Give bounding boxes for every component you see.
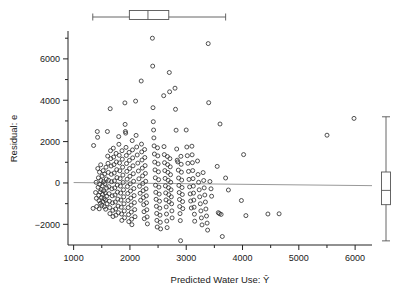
data-point [162, 94, 166, 98]
data-point [244, 214, 248, 218]
data-point [105, 130, 109, 134]
data-point [135, 153, 139, 157]
data-point [207, 101, 211, 105]
data-point [224, 176, 228, 180]
data-point [203, 200, 207, 204]
data-point [166, 163, 170, 167]
data-point [132, 187, 136, 191]
data-point [130, 139, 134, 143]
data-point [165, 226, 169, 230]
data-point [131, 156, 135, 160]
y-tick-label: 0 [55, 178, 60, 188]
data-point [108, 107, 112, 111]
data-point [185, 145, 189, 149]
scatter-points-group [91, 36, 356, 243]
data-point [226, 188, 230, 192]
data-point [190, 161, 194, 165]
data-point [198, 195, 202, 199]
data-point [139, 79, 143, 83]
data-point [123, 216, 127, 220]
y-tick-label: 2000 [40, 137, 60, 147]
data-point [130, 223, 134, 227]
data-point [131, 148, 135, 152]
data-point [178, 219, 182, 223]
data-point [156, 162, 160, 166]
data-point [190, 144, 194, 148]
data-point [325, 133, 329, 137]
data-point [191, 184, 195, 188]
x-tick-label: 6000 [345, 253, 365, 263]
data-point [208, 180, 212, 184]
data-point [174, 128, 178, 132]
data-point [164, 205, 168, 209]
data-point [196, 159, 200, 163]
data-point [136, 169, 140, 173]
residual-plot-figure: 100020003000400050006000−200002000400060… [0, 0, 405, 298]
data-point [162, 145, 166, 149]
top-box-rect [129, 11, 168, 20]
data-point [166, 170, 170, 174]
data-point [174, 107, 178, 111]
data-point [99, 163, 103, 167]
x-axis-label: Predicted Water Use: Ŷ [171, 274, 271, 285]
data-point [167, 71, 171, 75]
data-point [209, 187, 213, 191]
data-point [92, 144, 96, 148]
data-point [196, 173, 200, 177]
data-point [158, 199, 162, 203]
data-point [187, 169, 191, 173]
data-point [134, 133, 138, 137]
data-point [180, 186, 184, 190]
data-point [239, 199, 243, 203]
y-tick-label: 6000 [40, 54, 60, 64]
data-point [123, 122, 127, 126]
x-tick-label: 4000 [233, 253, 253, 263]
data-point [121, 181, 125, 185]
data-point [138, 184, 142, 188]
data-point [156, 146, 160, 150]
data-point [152, 136, 156, 140]
data-point [179, 239, 183, 243]
data-point [105, 194, 109, 198]
data-point [169, 173, 173, 177]
data-point [242, 153, 246, 157]
data-point [198, 202, 202, 206]
data-point [266, 212, 270, 216]
data-point [205, 221, 209, 225]
data-point [193, 219, 197, 223]
data-point [202, 186, 206, 190]
data-point [175, 147, 179, 151]
data-point [123, 101, 127, 105]
data-point [124, 145, 128, 149]
data-point [156, 170, 160, 174]
right-boxplot [382, 117, 391, 241]
data-point [180, 178, 184, 182]
x-tick-label: 5000 [289, 253, 309, 263]
data-point [143, 164, 147, 168]
data-point [178, 212, 182, 216]
data-point [117, 142, 121, 146]
data-point [120, 149, 124, 153]
data-point [170, 216, 174, 220]
data-point [151, 64, 155, 68]
data-point [184, 128, 188, 132]
data-point [170, 209, 174, 213]
data-point [143, 148, 147, 152]
data-point [122, 195, 126, 199]
data-point [277, 212, 281, 216]
data-point [152, 128, 156, 132]
data-point [192, 212, 196, 216]
data-point [204, 207, 208, 211]
data-point [181, 200, 185, 204]
data-point [352, 116, 356, 120]
y-axis-label: Residual: e [8, 115, 19, 163]
data-point [197, 188, 201, 192]
y-tick-label: 4000 [40, 96, 60, 106]
data-point [121, 173, 125, 177]
data-point [122, 209, 126, 213]
data-point [96, 135, 100, 139]
data-point [210, 194, 214, 198]
x-tick-label: 2000 [120, 253, 140, 263]
data-point [144, 179, 148, 183]
right-box-rect [382, 172, 391, 205]
